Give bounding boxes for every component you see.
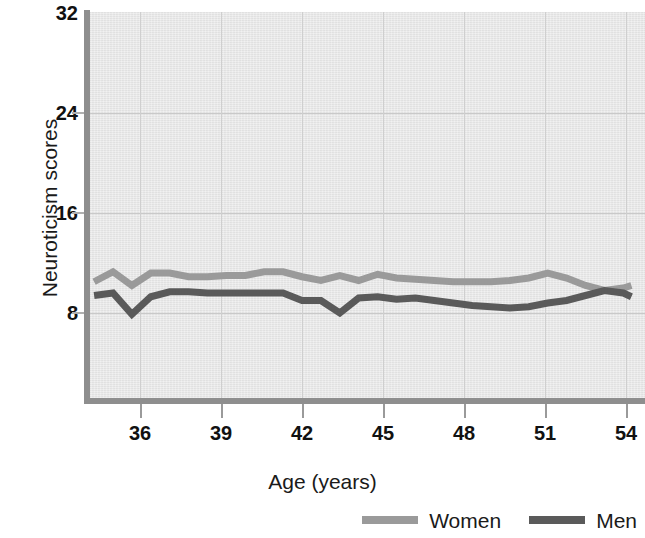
x-axis-spine — [84, 398, 645, 404]
x-tick-mark-48 — [464, 404, 466, 418]
y-axis-spine — [84, 10, 90, 404]
legend-swatch-women — [362, 516, 418, 524]
x-tick-label-48: 48 — [434, 422, 494, 445]
chart-figure: Neuroticism scores 32 24 16 8 3639424548… — [0, 0, 645, 538]
plot-area — [88, 12, 645, 400]
x-tick-mark-51 — [545, 404, 547, 418]
x-tick-label-42: 42 — [272, 422, 332, 445]
data-series-lines — [88, 12, 645, 400]
x-tick-label-45: 45 — [353, 422, 413, 445]
x-tick-mark-36 — [140, 404, 142, 418]
x-tick-mark-42 — [302, 404, 304, 418]
x-tick-label-39: 39 — [191, 422, 251, 445]
x-tick-label-36: 36 — [110, 422, 170, 445]
legend-item-men: Men — [529, 510, 637, 531]
x-axis-title: Age (years) — [0, 470, 645, 494]
legend-label-women: Women — [429, 510, 501, 531]
series-line-women — [94, 272, 631, 291]
y-tick-label-32: 32 — [34, 3, 78, 23]
legend-swatch-men — [529, 516, 585, 524]
x-tick-mark-39 — [221, 404, 223, 418]
chart-legend: Women Men — [0, 506, 645, 534]
x-tick-label-51: 51 — [515, 422, 575, 445]
y-axis-tick-labels: 32 24 16 8 — [20, 0, 78, 400]
legend-item-women: Women — [362, 510, 501, 531]
series-line-men — [94, 291, 631, 315]
x-tick-label-54: 54 — [596, 422, 645, 445]
legend-label-men: Men — [596, 510, 637, 531]
x-tick-mark-45 — [383, 404, 385, 418]
x-tick-mark-54 — [626, 404, 628, 418]
